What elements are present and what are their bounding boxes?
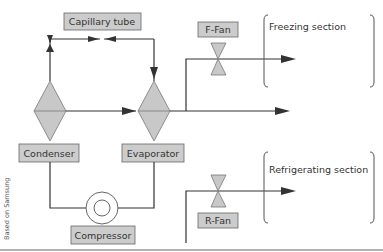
svg-text:Evaporator: Evaporator	[127, 148, 180, 159]
evaporator-diamond-icon	[138, 81, 170, 141]
arrow-left-icon	[105, 36, 116, 42]
freezing-duct	[186, 59, 290, 111]
svg-text:Capillary tube: Capillary tube	[69, 16, 136, 27]
condenser-box: Condenser	[19, 144, 79, 162]
svg-text:Compressor: Compressor	[75, 230, 132, 241]
svg-text:Condenser: Condenser	[23, 148, 74, 159]
arrow-down-icon	[150, 67, 158, 79]
arrow-up-icon	[46, 44, 54, 52]
evaporator-box: Evaporator	[122, 144, 184, 162]
capillary-loop	[50, 39, 154, 81]
arrow-right-icon	[281, 187, 296, 195]
condenser-diamond-icon	[34, 81, 66, 141]
arrow-right-icon	[275, 107, 290, 115]
arrow-right-icon	[88, 36, 99, 42]
refrigeration-cycle-diagram: Capillary tube F-Fan F	[0, 0, 383, 252]
svg-text:R-Fan: R-Fan	[205, 215, 231, 226]
credit-text: Based on Samsung	[3, 178, 11, 240]
svg-text:Freezing section: Freezing section	[269, 21, 346, 32]
svg-text:Refrigerating section: Refrigerating section	[269, 164, 368, 175]
freezing-section: Freezing section	[264, 15, 374, 87]
compressor-box: Compressor	[71, 226, 135, 244]
r-fan-box: R-Fan	[198, 213, 238, 228]
arrow-right-icon	[122, 107, 136, 115]
arrow-right-icon	[281, 55, 296, 63]
f-fan-box: F-Fan	[198, 22, 238, 37]
svg-text:F-Fan: F-Fan	[205, 24, 230, 35]
compressor-icon	[86, 192, 118, 224]
refrigerating-section: Refrigerating section	[264, 152, 374, 223]
capillary-tube-box: Capillary tube	[64, 13, 141, 30]
